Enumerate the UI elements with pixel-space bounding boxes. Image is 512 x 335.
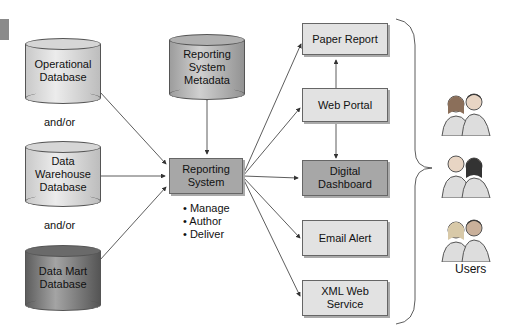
xml-web-service-box: XML Web Service xyxy=(302,280,388,316)
output-label: Paper Report xyxy=(312,33,377,46)
operational-database-cylinder: Operational Database xyxy=(25,38,101,104)
function-author: • Author xyxy=(183,215,230,228)
output-label: XML Web xyxy=(321,285,369,298)
data-warehouse-database-cylinder: Data Warehouse Database xyxy=(25,141,101,207)
output-label: Service xyxy=(327,298,364,311)
and-or-label: and/or xyxy=(44,116,75,129)
output-label: Digital xyxy=(330,165,361,178)
paper-report-box: Paper Report xyxy=(302,23,388,55)
metadata-label: Metadata xyxy=(169,74,245,87)
source-label: Data xyxy=(25,155,101,168)
reporting-functions-list: • Manage • Author • Deliver xyxy=(183,202,230,241)
output-label: Web Portal xyxy=(318,99,372,112)
web-portal-box: Web Portal xyxy=(302,88,388,122)
function-deliver: • Deliver xyxy=(183,228,230,241)
source-label: Warehouse xyxy=(25,168,101,181)
source-label: Operational xyxy=(25,58,101,71)
source-label: Database xyxy=(25,278,101,291)
people-pair-icon xyxy=(436,88,496,136)
users-label: Users xyxy=(455,263,486,276)
email-alert-box: Email Alert xyxy=(302,220,388,256)
source-label: Data Mart xyxy=(25,265,101,278)
source-label: Database xyxy=(25,181,101,194)
metadata-label: Reporting xyxy=(169,48,245,61)
and-or-label: and/or xyxy=(44,219,75,232)
people-pair-icon xyxy=(436,150,496,198)
reporting-system-box: Reporting System xyxy=(169,158,243,194)
output-label: Email Alert xyxy=(319,232,372,245)
people-pair-icon xyxy=(436,214,496,262)
output-label: Dashboard xyxy=(318,178,372,191)
reporting-system-label: Reporting xyxy=(182,163,230,176)
reporting-system-label: System xyxy=(188,176,225,189)
digital-dashboard-box: Digital Dashboard xyxy=(302,160,388,196)
reporting-system-metadata-cylinder: Reporting System Metadata xyxy=(169,34,245,100)
data-mart-database-cylinder: Data Mart Database xyxy=(25,245,101,311)
page-edge-fragment xyxy=(0,19,9,40)
source-label: Database xyxy=(25,71,101,84)
metadata-label: System xyxy=(169,61,245,74)
function-manage: • Manage xyxy=(183,202,230,215)
